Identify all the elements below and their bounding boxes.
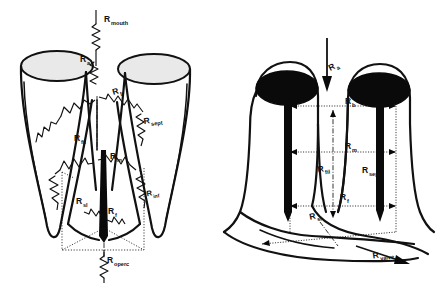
label-right-r-b-base: R [345,96,351,106]
label-right-r-f-sub: f [347,198,349,204]
left-label-r-sept: R sept [143,113,163,127]
left-label-r-sl: R sl [76,196,88,208]
label-right-r-m-base: R [345,141,351,151]
right-label-r-a: R a [326,59,341,75]
label-right-r-m-sub: m [352,147,357,153]
label-r-b-base: R [111,86,120,97]
right-diagram-svg: R a R b R m R fil R sept R f R sl R valv [218,0,436,292]
label-r-sl-sub: sl [83,202,88,208]
label-r-fil-sub: fil [81,139,86,145]
gill-arch-left-3d [224,62,318,232]
r-sl-resistor [84,209,101,216]
left-label-r-operc: R operc [107,255,129,267]
dimension-r-sl-axis [320,222,338,246]
label-r-f-sub: f [115,212,117,218]
left-diagram-svg: R mouth R a R b R sept R fil R m R inf R [0,0,218,292]
left-label-r-f: R f [108,206,117,218]
r-mouth-resistor-group [92,10,100,66]
r-m-left-resistor [55,158,94,174]
label-r-f-base: R [108,206,114,216]
label-right-r-a-sub: a [335,64,341,71]
medial-filament-column [97,100,108,243]
label-r-inf-sub: inf [153,192,160,199]
r-inf-left-resistor [49,176,59,210]
panel-frontal-view: R mouth R a R b R sept R fil R m R inf R [0,0,218,292]
label-r-operc-base: R [107,255,113,265]
label-right-r-fil-sub: fil [325,169,331,176]
panel-perspective-view: R a R b R m R fil R sept R f R sl R valv [218,0,436,292]
label-r-operc-sub: operc [114,261,129,267]
label-r-fil-base: R [74,133,80,143]
right-label-r-fil: R fil [317,163,331,177]
label-right-r-sept-sub: sept [369,171,381,177]
dimension-r-fil-axis [330,110,336,218]
left-label-r-mouth: R mouth [104,14,129,26]
label-r-m-base: R [110,151,116,161]
label-r-sept-base: R [143,115,150,126]
r-f-resistor [107,217,125,224]
left-label-r-inf: R inf [146,187,160,200]
label-right-r-sept-base: R [362,165,368,175]
label-right-r-b-sub: b [352,102,356,108]
label-right-r-f-base: R [340,192,346,202]
opercular-flap-outlines [224,206,428,261]
r-a-resistor [90,62,98,84]
label-right-r-fil-base: R [317,164,324,175]
label-r-mouth-sub: mouth [111,20,129,26]
label-r-sept-sub: sept [151,119,163,127]
label-r-mouth-base: R [104,14,110,24]
gill-resistance-figure: R mouth R a R b R sept R fil R m R inf R [0,0,436,292]
label-right-r-valve-base: R [372,250,379,261]
label-r-a-base: R [80,54,86,64]
label-r-sl-base: R [76,196,82,206]
label-r-m-sub: m [117,157,122,163]
